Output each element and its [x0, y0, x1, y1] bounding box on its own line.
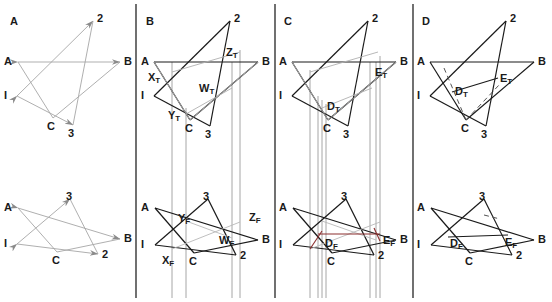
panel-d-top-view	[430, 21, 534, 126]
point-label-d-front-C: C	[465, 256, 473, 267]
point-label-d-front-B: B	[538, 234, 546, 245]
point-label-b-top-1: I	[141, 90, 144, 101]
point-label-a-front-B: B	[124, 233, 132, 244]
point-label-a-front-3: 3	[66, 191, 72, 202]
point-label-d-top-2: 2	[510, 13, 516, 24]
point-label-c-top-3: 3	[343, 129, 349, 140]
point-label-b-top-B: B	[262, 56, 270, 67]
panel-label-c: C	[284, 16, 292, 27]
point-label-a-top-1: I	[4, 90, 7, 101]
point-label-c-front-3: 3	[341, 191, 347, 202]
cut-label-b-top-W: WT	[199, 83, 214, 96]
point-label-b-front-B: B	[262, 234, 270, 245]
panel-a-top-view	[17, 21, 120, 125]
cut-label-b-front-Z: ZF	[249, 212, 261, 225]
point-label-c-front-1: I	[279, 239, 282, 250]
panel-c-front-view	[293, 199, 396, 255]
point-label-d-top-1: I	[417, 90, 420, 101]
cut-label-d-top-E: ET	[500, 73, 512, 86]
panel-label-b: B	[146, 16, 154, 27]
point-label-c-front-2: 2	[378, 250, 384, 261]
cut-label-c-top-D: DT	[327, 101, 340, 114]
point-label-b-front-2: 2	[240, 250, 246, 261]
panel-a-front-view	[17, 199, 120, 254]
cut-label-b-front-Y: YF	[178, 213, 190, 226]
point-label-c-top-C: C	[323, 123, 331, 134]
point-label-a-front-C: C	[52, 255, 60, 266]
point-label-a-front-A: A	[4, 202, 12, 213]
point-label-d-top-3: 3	[481, 129, 487, 140]
point-label-b-top-3: 3	[205, 129, 211, 140]
point-label-b-front-1: I	[141, 239, 144, 250]
cut-label-b-top-Y: YT	[168, 110, 180, 123]
cut-label-d-top-D: DT	[455, 86, 468, 99]
point-label-a-top-A: A	[4, 56, 12, 67]
point-label-c-top-A: A	[279, 56, 287, 67]
cut-label-b-front-W: WF	[219, 235, 234, 248]
point-label-d-top-C: C	[461, 123, 469, 134]
point-label-c-front-A: A	[279, 202, 287, 213]
cut-label-c-front-D: DF	[325, 238, 338, 251]
point-label-c-top-2: 2	[372, 13, 378, 24]
point-label-b-front-C: C	[189, 256, 197, 267]
panel-d-front-view	[431, 199, 534, 255]
cut-label-c-top-E: ET	[375, 67, 387, 80]
cut-label-d-front-D: DF	[450, 238, 463, 251]
point-label-a-top-C: C	[47, 121, 55, 132]
panel-c-projectors	[310, 56, 380, 298]
point-label-d-top-A: A	[417, 56, 425, 67]
point-label-a-front-1: I	[4, 238, 7, 249]
panel-label-d: D	[422, 16, 430, 27]
point-label-c-front-B: B	[400, 234, 408, 245]
cut-label-b-front-X: XF	[162, 255, 174, 268]
point-label-b-top-2: 2	[234, 13, 240, 24]
point-label-b-front-3: 3	[203, 191, 209, 202]
cut-label-b-top-Z: ZT	[226, 47, 238, 60]
cut-label-c-front-E: EF	[383, 235, 395, 248]
point-label-a-top-B: B	[124, 56, 132, 67]
point-label-d-top-B: B	[538, 56, 546, 67]
panel-dividers	[136, 4, 413, 298]
point-label-b-top-C: C	[185, 123, 193, 134]
point-label-d-front-3: 3	[479, 191, 485, 202]
point-label-d-front-A: A	[417, 202, 425, 213]
cut-label-d-front-E: EF	[505, 237, 517, 250]
point-label-a-top-3: 3	[68, 128, 74, 139]
point-label-a-top-2: 2	[97, 13, 103, 24]
point-label-a-front-2: 2	[102, 249, 108, 260]
point-label-d-front-1: I	[417, 239, 420, 250]
drawing-canvas: A B C D A B C I 2 3 A B C I 2 3 A B C I …	[0, 0, 552, 302]
cut-label-b-top-X: XT	[148, 72, 160, 85]
panel-b-front-view	[155, 199, 258, 255]
point-label-b-front-A: A	[141, 202, 149, 213]
point-label-d-front-2: 2	[516, 250, 522, 261]
point-label-c-front-C: C	[327, 256, 335, 267]
point-label-b-top-A: A	[141, 56, 149, 67]
point-label-c-top-1: I	[279, 90, 282, 101]
panel-label-a: A	[10, 16, 18, 27]
point-label-c-top-B: B	[400, 56, 408, 67]
